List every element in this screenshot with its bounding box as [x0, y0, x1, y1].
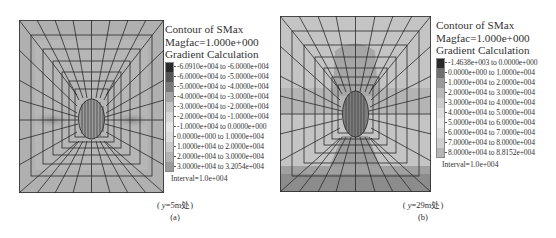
legend-row: -6.0910e+004 to -6.0000e+004 [165, 62, 269, 72]
legend-tick [445, 142, 447, 143]
legend-row: -3.0000e+004 to -2.0000e+004 [165, 102, 269, 112]
legend-swatch [165, 82, 174, 92]
legend-label: 2.0000e+004 to 3.0000e+004 [448, 88, 535, 97]
legend-tick [445, 82, 447, 83]
legend-tick [174, 86, 176, 87]
legend-swatch [436, 118, 445, 128]
legend-tick [174, 126, 176, 127]
legend-label: -6.0000e+004 to -5.0000e+004 [177, 72, 269, 81]
caption-a: ( y=5m处) (a) [120, 198, 230, 222]
caption-letter: (b) [368, 212, 478, 222]
legend-magfac: Magfac=1.000e+000 [436, 32, 537, 45]
legend-swatch [165, 112, 174, 122]
legend-swatch [436, 138, 445, 148]
legend-row: 6.0000e+004 to 7.0000e+004 [436, 128, 537, 138]
legend-label: -2.0000e+004 to -1.0000e+004 [177, 112, 269, 121]
legend-interval: Interval=1.0e+004 [442, 160, 537, 169]
legend-label: 3.0000e+004 to 3.2054e+004 [177, 162, 264, 171]
legend-label: -1.0000e+004 to 0.0000e+000 [177, 122, 266, 131]
legend-tick [174, 106, 176, 107]
legend-tick [174, 116, 176, 117]
legend-swatch [165, 152, 174, 162]
legend-label: -6.0910e+004 to -6.0000e+004 [177, 62, 269, 71]
legend-rows: -6.0910e+004 to -6.0000e+004-6.0000e+004… [165, 62, 269, 172]
legend-a: Contour of SMax Magfac=1.000e+000 Gradie… [165, 23, 269, 183]
legend-row: -5.0000e+004 to -4.0000e+004 [165, 82, 269, 92]
legend-method: Gradient Calculation [165, 48, 269, 61]
legend-label: 4.0000e+004 to 5.0000e+004 [448, 108, 535, 117]
caption-b: ( y=29m处) (b) [368, 198, 478, 222]
legend-row: 2.0000e+004 to 3.0000e+004 [436, 88, 537, 98]
legend-swatch [436, 78, 445, 88]
legend-swatch [436, 108, 445, 118]
legend-swatch [436, 128, 445, 138]
legend-label: 0.0000e+000 to 1.0000e+004 [448, 68, 535, 77]
legend-row: 5.0000e+004 to 6.0000e+004 [436, 118, 537, 128]
legend-row: 2.0000e+004 to 3.0000e+004 [165, 152, 269, 162]
legend-rows: -1.4638e+003 to 0.0000e+0000.0000e+000 t… [436, 58, 537, 158]
legend-label: -1.4638e+003 to 0.0000e+000 [448, 58, 537, 67]
legend-label: 1.0000e+004 to 2.0000e+004 [177, 142, 264, 151]
legend-swatch [165, 142, 174, 152]
legend-magfac: Magfac=1.000e+000 [165, 36, 269, 49]
legend-swatch [436, 88, 445, 98]
legend-label: 6.0000e+004 to 7.0000e+004 [448, 128, 535, 137]
legend-title: Contour of SMax [436, 19, 537, 32]
legend-tick [174, 66, 176, 67]
contour-mesh-a [19, 20, 164, 193]
legend-swatch [436, 98, 445, 108]
legend-label: 7.0000e+004 to 8.0000e+004 [448, 138, 535, 147]
legend-label: 3.0000e+004 to 4.0000e+004 [448, 98, 535, 107]
legend-swatch [165, 102, 174, 112]
legend-label: 8.0000e+004 to 8.8152e+004 [448, 148, 535, 157]
legend-interval: Interval=1.0e+004 [171, 174, 269, 183]
legend-row: 0.0000e+000 to 1.0000e+004 [165, 132, 269, 142]
legend-tick [445, 132, 447, 133]
legend-label: 1.0000e+004 to 2.0000e+004 [448, 78, 535, 87]
legend-title: Contour of SMax [165, 23, 269, 36]
legend-tick [174, 146, 176, 147]
legend-label: 5.0000e+004 to 6.0000e+004 [448, 118, 535, 127]
legend-row: 4.0000e+004 to 5.0000e+004 [436, 108, 537, 118]
legend-row: 3.0000e+004 to 4.0000e+004 [436, 98, 537, 108]
caption-location: ( y=29m处) [368, 198, 478, 210]
legend-row: -1.0000e+004 to 0.0000e+000 [165, 122, 269, 132]
legend-label: 2.0000e+004 to 3.0000e+004 [177, 152, 264, 161]
legend-tick [174, 96, 176, 97]
legend-tick [174, 76, 176, 77]
legend-tick [445, 92, 447, 93]
legend-swatch [436, 58, 445, 68]
legend-row: 1.0000e+004 to 2.0000e+004 [436, 78, 537, 88]
legend-swatch [165, 92, 174, 102]
legend-row: -2.0000e+004 to -1.0000e+004 [165, 112, 269, 122]
legend-row: 8.0000e+004 to 8.8152e+004 [436, 148, 537, 158]
legend-method: Gradient Calculation [436, 44, 537, 57]
legend-tick [445, 152, 447, 153]
legend-swatch [165, 62, 174, 72]
legend-swatch [165, 132, 174, 142]
legend-row: 0.0000e+000 to 1.0000e+004 [436, 68, 537, 78]
legend-tick [174, 136, 176, 137]
legend-row: -6.0000e+004 to -5.0000e+004 [165, 72, 269, 82]
legend-row: 7.0000e+004 to 8.0000e+004 [436, 138, 537, 148]
caption-letter: (a) [120, 212, 230, 222]
legend-tick [174, 166, 176, 167]
legend-tick [445, 122, 447, 123]
contour-mesh-b [280, 16, 431, 192]
legend-tick [445, 102, 447, 103]
legend-tick [445, 62, 447, 63]
legend-tick [445, 112, 447, 113]
legend-b: Contour of SMax Magfac=1.000e+000 Gradie… [436, 19, 537, 169]
legend-row: -1.4638e+003 to 0.0000e+000 [436, 58, 537, 68]
legend-label: -3.0000e+004 to -2.0000e+004 [177, 102, 269, 111]
legend-swatch [165, 162, 174, 172]
legend-label: -4.0000e+004 to -3.0000e+004 [177, 92, 269, 101]
legend-row: -4.0000e+004 to -3.0000e+004 [165, 92, 269, 102]
legend-row: 3.0000e+004 to 3.2054e+004 [165, 162, 269, 172]
legend-tick [445, 72, 447, 73]
legend-label: 0.0000e+000 to 1.0000e+004 [177, 132, 264, 141]
legend-swatch [165, 72, 174, 82]
legend-swatch [436, 148, 445, 158]
legend-row: 1.0000e+004 to 2.0000e+004 [165, 142, 269, 152]
legend-label: -5.0000e+004 to -4.0000e+004 [177, 82, 269, 91]
